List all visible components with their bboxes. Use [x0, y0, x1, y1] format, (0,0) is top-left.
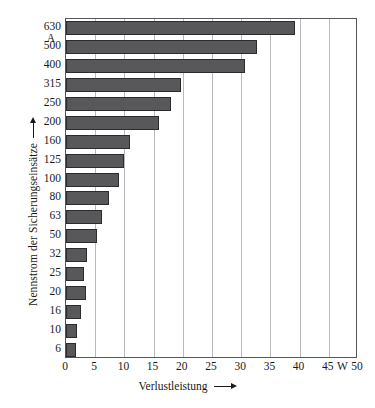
bar — [66, 97, 171, 111]
bar — [66, 324, 77, 338]
bar — [66, 229, 97, 243]
gridline — [329, 19, 330, 357]
x-axis-tick-label: 35 — [264, 360, 276, 372]
x-axis-tick-label: 25 — [205, 360, 217, 372]
y-axis-tick-label: 25 — [50, 267, 62, 279]
x-axis-caption: Verlustleistung — [0, 378, 375, 394]
y-axis-tick-label: 250 — [44, 97, 61, 109]
plot-area — [65, 18, 357, 358]
bar — [66, 286, 86, 300]
x-axis-tick-label: 30 — [234, 360, 246, 372]
y-axis-tick-label: 100 — [44, 173, 61, 185]
x-axis-unit-label: W — [337, 360, 348, 372]
y-axis-tick-label: 32 — [50, 248, 62, 260]
x-axis-tick-label: 10 — [118, 360, 130, 372]
bar — [66, 40, 257, 54]
bar — [66, 267, 84, 281]
y-axis-tick-label: 80 — [50, 191, 62, 203]
y-axis-tick-label: 6 — [55, 343, 61, 355]
gridline — [270, 19, 271, 357]
x-axis-tick-labels: 05101520253035404550W — [0, 360, 375, 376]
y-axis-tick-label: 16 — [50, 305, 62, 317]
bar — [66, 305, 81, 319]
bar — [66, 343, 76, 357]
x-axis-tick-label: 0 — [62, 360, 68, 372]
bar — [66, 248, 87, 262]
y-axis-tick-label: 160 — [44, 135, 61, 147]
y-axis-tick-label: 50 — [50, 229, 62, 241]
x-axis-tick-label: 50 — [351, 360, 363, 372]
x-axis-tick-label: 15 — [147, 360, 159, 372]
bar — [66, 116, 159, 130]
x-axis-tick-label: 5 — [91, 360, 97, 372]
bar — [66, 210, 102, 224]
y-axis-tick-label: 315 — [44, 78, 61, 90]
bar — [66, 21, 295, 35]
bar — [66, 173, 119, 187]
x-axis-arrow-icon — [214, 383, 237, 389]
x-axis-label-text: Verlustleistung — [139, 380, 208, 392]
bar — [66, 154, 124, 168]
bar — [66, 135, 130, 149]
x-axis-tick-label: 40 — [293, 360, 305, 372]
y-axis-tick-label: 10 — [50, 324, 62, 336]
bar — [66, 191, 109, 205]
x-axis-tick-label: 45 — [322, 360, 334, 372]
y-axis-tick-labels: 6305004003152502001601251008063503225201… — [26, 18, 63, 358]
y-axis-tick-label: 400 — [44, 59, 61, 71]
y-axis-tick-label: 125 — [44, 154, 61, 166]
gridline — [300, 19, 301, 357]
x-axis-tick-label: 20 — [176, 360, 188, 372]
y-axis-tick-label: 63 — [50, 210, 62, 222]
bar — [66, 59, 245, 73]
bar — [66, 78, 181, 92]
y-axis-unit-label: A — [47, 33, 55, 45]
bar-chart-figure: Nennstrom der Sicherungseinsätze 6305004… — [0, 0, 375, 408]
y-axis-tick-label: 20 — [50, 286, 62, 298]
y-axis-tick-label: 200 — [44, 116, 61, 128]
